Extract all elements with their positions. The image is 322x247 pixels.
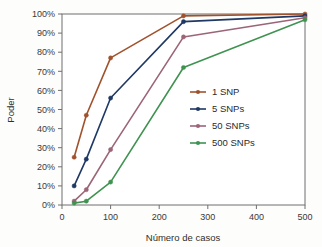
legend-swatch-marker: [196, 141, 200, 145]
data-point: [72, 201, 76, 205]
data-point: [84, 188, 88, 192]
legend-label: 1 SNP: [212, 86, 239, 97]
x-axis-title: Número de casos: [146, 232, 221, 243]
y-tick-label: 30%: [37, 143, 55, 153]
y-tick-label: 60%: [37, 86, 55, 96]
y-tick-label: 80%: [37, 47, 55, 57]
legend-swatch-marker: [196, 90, 200, 94]
y-tick-label: 100%: [32, 9, 55, 19]
y-axis-ticks: 0%10%20%30%40%50%60%70%80%90%100%: [32, 9, 62, 210]
plot-frame: [62, 14, 305, 205]
y-tick-label: 0%: [42, 200, 55, 210]
data-point: [303, 18, 307, 22]
data-point: [109, 96, 113, 100]
data-point: [72, 155, 76, 159]
data-point: [109, 56, 113, 60]
legend-label: 500 SNPs: [212, 137, 255, 148]
y-tick-label: 70%: [37, 67, 55, 77]
chart-container: 0%10%20%30%40%50%60%70%80%90%100% 010020…: [0, 0, 322, 247]
y-tick-label: 20%: [37, 162, 55, 172]
y-axis-title: Poder: [5, 97, 16, 122]
x-tick-label: 100: [103, 212, 118, 222]
x-tick-label: 500: [297, 212, 312, 222]
data-point: [109, 180, 113, 184]
legend-swatch-marker: [196, 107, 200, 111]
x-tick-label: 300: [200, 212, 215, 222]
data-point: [181, 65, 185, 69]
data-point: [84, 157, 88, 161]
legend-swatch-marker: [196, 124, 200, 128]
x-tick-label: 400: [249, 212, 264, 222]
data-point: [181, 35, 185, 39]
data-point: [109, 148, 113, 152]
data-point: [84, 113, 88, 117]
legend-label: 5 SNPs: [212, 103, 244, 114]
y-tick-label: 90%: [37, 28, 55, 38]
y-tick-label: 40%: [37, 124, 55, 134]
x-tick-label: 200: [152, 212, 167, 222]
data-point: [181, 20, 185, 24]
x-tick-label: 0: [59, 212, 64, 222]
power-vs-cases-line-chart: 0%10%20%30%40%50%60%70%80%90%100% 010020…: [0, 0, 322, 247]
data-point: [181, 14, 185, 18]
x-axis-ticks: 0100200300400500: [59, 205, 312, 222]
data-point: [84, 199, 88, 203]
data-point: [72, 184, 76, 188]
y-tick-label: 10%: [37, 181, 55, 191]
y-tick-label: 50%: [37, 105, 55, 115]
legend-label: 50 SNPs: [212, 120, 250, 131]
plot-area-border: [62, 14, 305, 205]
